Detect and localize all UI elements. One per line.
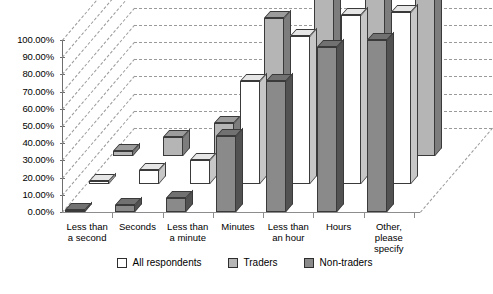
bar-all-respondents xyxy=(190,160,210,184)
legend-item[interactable]: Non-traders xyxy=(304,258,373,268)
bar-non-traders xyxy=(115,205,135,212)
legend-item[interactable]: Traders xyxy=(228,258,278,268)
y-axis-tick-label: 30.00% xyxy=(0,155,54,165)
bar-non-traders xyxy=(317,47,337,212)
bar-side-face xyxy=(337,38,344,212)
y-axis-tick-label: 0.00% xyxy=(0,207,54,217)
chart-legend: All respondentsTradersNon-traders xyxy=(0,258,489,268)
x-axis-tick xyxy=(364,212,365,218)
bar-front-face xyxy=(216,136,236,212)
bar-front-face xyxy=(166,198,186,212)
bar-non-traders xyxy=(266,81,286,212)
gridline-depth xyxy=(62,59,135,144)
x-axis-tick xyxy=(163,212,164,218)
bar-front-face xyxy=(89,181,109,184)
y-axis-tick-label: 20.00% xyxy=(0,173,54,183)
bar-non-traders xyxy=(367,40,387,212)
x-axis-tick xyxy=(112,212,113,218)
y-axis-tick-label: 90.00% xyxy=(0,52,54,62)
y-axis-tick-label: 40.00% xyxy=(0,138,54,148)
bar-front-face xyxy=(163,137,183,156)
bar-front-face xyxy=(65,210,85,212)
x-axis-category-label: Other, please specify xyxy=(349,221,429,254)
bar-side-face xyxy=(387,31,394,212)
x-axis-line xyxy=(62,212,420,213)
bar-front-face xyxy=(139,170,159,184)
x-axis-tick xyxy=(263,212,264,218)
legend-item[interactable]: All respondents xyxy=(117,258,202,268)
gridline-depth xyxy=(62,8,135,93)
bar-all-respondents xyxy=(290,36,310,184)
gridline-depth xyxy=(62,94,135,179)
bar-side-face xyxy=(286,73,293,212)
gridline-depth xyxy=(62,25,135,110)
legend-swatch-icon xyxy=(304,258,314,268)
legend-label: Traders xyxy=(244,258,278,268)
x-axis-tick xyxy=(414,212,415,218)
y-axis-tick-label: 10.00% xyxy=(0,190,54,200)
gridline-depth xyxy=(62,42,135,127)
bar-side-face xyxy=(236,128,243,212)
bar-all-respondents xyxy=(89,181,109,184)
bar-traders xyxy=(163,137,183,156)
bar-front-face xyxy=(290,36,310,184)
bar-non-traders xyxy=(216,136,236,212)
bar-front-face xyxy=(317,47,337,212)
x-axis-tick xyxy=(313,212,314,218)
legend-label: Non-traders xyxy=(320,258,373,268)
bar-front-face xyxy=(367,40,387,212)
y-axis-tick-label: 60.00% xyxy=(0,104,54,114)
bar-non-traders xyxy=(65,210,85,212)
bar-traders xyxy=(113,151,133,156)
bar-front-face xyxy=(115,205,135,212)
x-axis-tick xyxy=(213,212,214,218)
y-axis-tick-label: 70.00% xyxy=(0,87,54,97)
bar-front-face xyxy=(266,81,286,212)
y-axis-tick-label: 50.00% xyxy=(0,121,54,131)
bar-side-face xyxy=(411,3,418,184)
bar-all-respondents xyxy=(139,170,159,184)
legend-label: All respondents xyxy=(133,258,202,268)
bar-front-face xyxy=(190,160,210,184)
bar-side-face xyxy=(435,0,442,156)
bar-non-traders xyxy=(166,198,186,212)
legend-swatch-icon xyxy=(117,258,127,268)
y-axis-tick-label: 80.00% xyxy=(0,69,54,79)
bar-front-face xyxy=(113,151,133,156)
y-axis-tick-label: 100.00% xyxy=(0,35,54,45)
legend-swatch-icon xyxy=(228,258,238,268)
